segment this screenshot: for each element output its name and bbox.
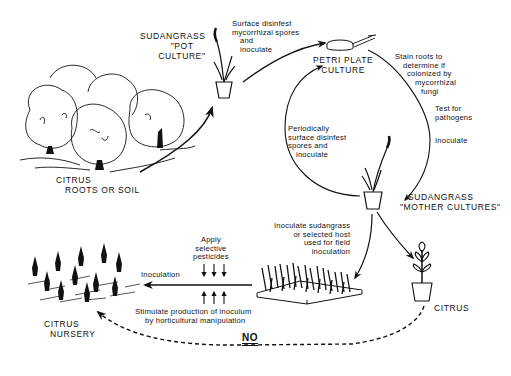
citrus-pot-label-text: CITRUS [434, 304, 469, 314]
citrus-source-label: CITRUS ROOTS OR SOIL [56, 176, 140, 196]
mother-cultures-label: SUDANGRASS "MOTHER CULTURES" [400, 193, 501, 213]
note-line: pesticides [193, 253, 229, 262]
citrus-nursery-label: CITRUS NURSERY [44, 320, 96, 340]
citrus-source-line2: ROOTS OR SOIL [56, 186, 140, 196]
pesticide-arrows-icon [204, 264, 224, 276]
mother-label-line2: "MOTHER CULTURES" [400, 203, 501, 213]
note-line: inoculation [274, 248, 350, 257]
inoculation-note: Inoculation [141, 271, 180, 280]
stimulate-arrows-icon [204, 292, 224, 304]
note-line: pathogens [435, 114, 472, 123]
apply-pesticides-note: Apply selective pesticides [193, 236, 229, 262]
field-inoculation-flat-icon [257, 281, 362, 304]
arrow-mother-to-field [355, 214, 372, 278]
periodically-note: Periodically surface disinfest spores an… [288, 125, 346, 160]
pot-culture-label-line3: CULTURE" [140, 52, 206, 62]
field-inoculation-note: Inoculate sudangrass or selected host us… [274, 222, 350, 257]
mother-culture-pot-icon [362, 136, 389, 209]
citrus-seedling-pot-icon [412, 242, 432, 301]
citrus-trees-icon [20, 65, 195, 172]
stimulate-note: Stimulate production of inoculum by hort… [135, 308, 252, 325]
mycorrhizal-inoculum-cycle-diagram: SUDANGRASS "POT CULTURE" Surface disinfe… [0, 0, 511, 376]
note-line: Inoculate [435, 137, 468, 146]
citrus-pot-label: CITRUS [434, 304, 469, 314]
note-line: inoculate [288, 151, 346, 160]
pot-culture-label: SUDANGRASS "POT CULTURE" [140, 32, 206, 61]
petri-plate-icon [327, 35, 376, 50]
nursery-label-line2: NURSERY [44, 330, 96, 340]
inoculate-note: Inoculate [435, 137, 468, 146]
nursery-trees-icon [32, 243, 122, 302]
note-line: inoculate [232, 46, 299, 55]
note-line: fungi [395, 88, 456, 97]
petri-plate-label: PETRI PLATE CULTURE [313, 56, 373, 76]
no-label: NO [242, 332, 258, 346]
surface-disinfest-note: Surface disinfest mycorrhizal spores and… [232, 20, 299, 55]
petri-label-line2: CULTURE [313, 66, 373, 76]
stain-roots-note: Stain roots to determine if colonized by… [395, 53, 456, 97]
note-line: Inoculation [141, 271, 180, 280]
test-pathogens-note: Test for pathogens [435, 105, 472, 122]
arrow-mother-to-citrus [377, 212, 413, 258]
note-line: by horticultural manipulation [135, 317, 252, 326]
